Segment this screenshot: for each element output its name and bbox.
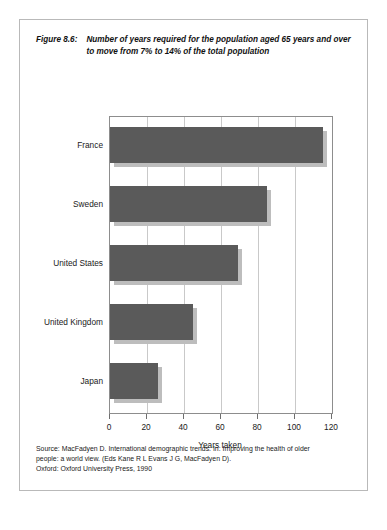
figure-box: Figure 8.6: Number of years required for… xyxy=(19,19,368,491)
x-tick-label: 100 xyxy=(287,422,301,432)
bars-layer: FranceSwedenUnited StatesUnited KingdomJ… xyxy=(110,117,332,413)
bar-group: United States xyxy=(110,245,332,295)
bar-group: United Kingdom xyxy=(110,304,332,354)
category-label: United Kingdom xyxy=(44,314,103,330)
bar-group: Sweden xyxy=(110,186,332,236)
x-tick-mark xyxy=(294,414,295,419)
bar-row: France xyxy=(110,117,332,176)
source-note: Source: MacFadyen D. International demog… xyxy=(36,444,354,475)
category-label: France xyxy=(77,137,103,153)
x-tick-label: 0 xyxy=(107,422,112,432)
category-label: Japan xyxy=(80,373,103,389)
figure-number: Figure 8.6: xyxy=(36,34,77,46)
plot-frame: FranceSwedenUnited StatesUnited KingdomJ… xyxy=(109,116,333,414)
source-line-3: Oxford: Oxford University Press, 1990 xyxy=(36,464,354,474)
figure-title: Number of years required for the populat… xyxy=(86,34,354,59)
source-line-1: Source: MacFadyen D. International demog… xyxy=(36,444,354,454)
bar[interactable] xyxy=(110,363,158,399)
x-tick-mark xyxy=(183,414,184,419)
x-tick-label: 120 xyxy=(324,422,338,432)
bar-chart: FranceSwedenUnited StatesUnited KingdomJ… xyxy=(20,78,367,440)
x-tick-mark xyxy=(331,414,332,419)
bar[interactable] xyxy=(110,304,193,340)
figure-caption: Figure 8.6: Number of years required for… xyxy=(36,34,354,59)
bar-row: Sweden xyxy=(110,176,332,235)
source-line-2: people: a world view. (Eds Kane R L Evan… xyxy=(36,454,354,464)
x-tick-mark xyxy=(146,414,147,419)
x-tick-mark xyxy=(220,414,221,419)
bar-row: United States xyxy=(110,235,332,294)
bar-group: Japan xyxy=(110,363,332,413)
x-tick-label: 20 xyxy=(141,422,150,432)
bar-row: Japan xyxy=(110,354,332,413)
x-tick-mark xyxy=(109,414,110,419)
category-label: Sweden xyxy=(73,196,103,212)
x-tick-label: 60 xyxy=(215,422,224,432)
bar-row: United Kingdom xyxy=(110,295,332,354)
x-tick-label: 40 xyxy=(178,422,187,432)
bar[interactable] xyxy=(110,127,323,163)
x-tick-mark xyxy=(257,414,258,419)
x-tick-label: 80 xyxy=(252,422,261,432)
category-label: United States xyxy=(53,255,103,271)
bar-group: France xyxy=(110,127,332,177)
bar[interactable] xyxy=(110,245,238,281)
bar[interactable] xyxy=(110,186,267,222)
